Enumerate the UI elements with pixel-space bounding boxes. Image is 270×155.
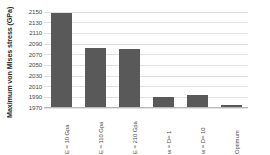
x-axis-category-labels: E = 10 GpaE = 110 GpaE = 210 Gpaw = D= 1… xyxy=(44,110,248,155)
gridline xyxy=(44,76,248,77)
chart-figure: Maximum von Mises stress (GPa) 197019902… xyxy=(0,0,270,155)
plot-area xyxy=(44,12,248,108)
y-axis-tick-labels: 1970199020102030205020702090211021302150 xyxy=(16,12,42,108)
gridline xyxy=(44,33,248,34)
x-tick-label: Optimum xyxy=(234,130,241,154)
gridline xyxy=(44,22,248,23)
x-tick-label: w = D= 1 xyxy=(166,131,173,154)
gridline xyxy=(44,65,248,66)
y-tick-label: 2010 xyxy=(16,84,42,90)
x-label-slot: E = 10 Gpa xyxy=(44,110,78,155)
y-tick-label: 2150 xyxy=(16,9,42,15)
x-tick-label: E = 110 Gpa xyxy=(98,122,105,154)
y-tick-label: 2050 xyxy=(16,62,42,68)
y-tick-label: 2090 xyxy=(16,41,42,47)
x-tick-label: E = 10 Gpa xyxy=(64,124,71,154)
gridline xyxy=(44,97,248,98)
bar xyxy=(51,13,72,107)
y-tick-label: 2110 xyxy=(16,30,42,36)
y-tick-label: 1970 xyxy=(16,105,42,111)
y-tick-label: 2030 xyxy=(16,73,42,79)
gridline xyxy=(44,86,248,87)
y-tick-label: 2130 xyxy=(16,20,42,26)
x-label-slot: E = 210 Gpa xyxy=(112,110,146,155)
x-tick-label: w = D= 10 xyxy=(200,128,207,154)
x-label-slot: w = D= 10 xyxy=(180,110,214,155)
gridline xyxy=(44,12,248,13)
bar xyxy=(85,48,106,107)
bar xyxy=(187,95,208,107)
gridline xyxy=(44,54,248,55)
y-tick-label: 1990 xyxy=(16,94,42,100)
gridline xyxy=(44,44,248,45)
gridline xyxy=(44,108,248,109)
bar xyxy=(119,49,140,107)
x-label-slot: Optimum xyxy=(214,110,248,155)
x-tick-label: E = 210 Gpa xyxy=(132,121,139,154)
y-axis-title: Maximum von Mises stress (GPa) xyxy=(4,8,16,118)
x-label-slot: E = 110 Gpa xyxy=(78,110,112,155)
y-tick-label: 2070 xyxy=(16,52,42,58)
bar xyxy=(153,97,174,107)
bar xyxy=(221,105,242,107)
x-label-slot: w = D= 1 xyxy=(146,110,180,155)
